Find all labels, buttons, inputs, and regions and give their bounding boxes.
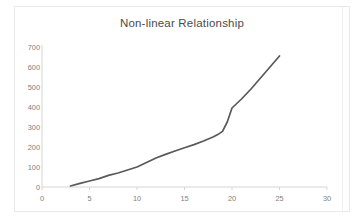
y-tick-label: 400 xyxy=(28,103,40,112)
y-tick-label: 700 xyxy=(28,43,40,52)
y-tick-label: 300 xyxy=(28,123,40,132)
x-tick-label: 30 xyxy=(323,194,331,203)
line-chart-plot: 700 600 500 400 300 200 100 0 0 5 10 xyxy=(15,7,351,213)
x-tick-label: 5 xyxy=(87,194,91,203)
x-axis-tick-labels: 0 5 10 15 20 25 30 xyxy=(40,194,331,203)
x-tick-label: 0 xyxy=(40,194,44,203)
y-axis-tick-labels: 700 600 500 400 300 200 100 0 xyxy=(28,43,40,192)
y-tick-label: 200 xyxy=(28,143,40,152)
x-tick-label: 10 xyxy=(133,194,141,203)
y-tick-label: 100 xyxy=(28,163,40,172)
y-tick-label: 500 xyxy=(28,83,40,92)
data-series-line xyxy=(71,56,280,186)
y-tick-label: 0 xyxy=(36,183,40,192)
y-tick-label: 600 xyxy=(28,63,40,72)
x-tick-label: 25 xyxy=(275,194,283,203)
x-tick-label: 20 xyxy=(228,194,236,203)
chart-container: Non-linear Relationship 700 600 500 400 … xyxy=(14,6,350,212)
x-tick-label: 15 xyxy=(180,194,188,203)
